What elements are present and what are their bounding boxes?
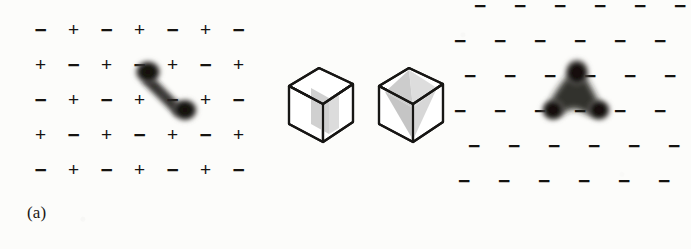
lattice-a-row-0: −+−+−+−	[24, 18, 255, 40]
lattice-a-row-1: +−+−+−+	[24, 53, 255, 75]
lattice-site-a-0-0-minus: −	[24, 20, 57, 39]
lattice-site-b-5-3-minus: −	[564, 171, 604, 190]
lattice-site-a-0-2-minus: −	[90, 20, 123, 39]
lattice-site-a-0-1-plus: +	[57, 20, 90, 39]
lattice-site-a-2-2-minus: −	[90, 90, 123, 109]
lattice-site-a-4-3-plus: +	[123, 160, 156, 179]
lattice-site-b-5-2-minus: −	[524, 171, 564, 190]
lattice-site-a-4-6-minus: −	[222, 160, 255, 179]
lattice-site-b-1-0-minus: −	[440, 31, 480, 50]
lattice-site-a-0-6-minus: −	[222, 20, 255, 39]
lattice-site-b-3-1-minus: −	[480, 101, 520, 120]
lattice-site-b-3-2-minus: −	[520, 101, 560, 120]
lattice-site-a-3-3-minus: −	[123, 125, 156, 144]
lattice-site-a-1-4-plus: +	[156, 55, 189, 74]
lattice-site-a-3-0-plus: +	[24, 125, 57, 144]
lattice-site-b-1-3-minus: −	[560, 31, 600, 50]
lattice-site-b-0-5-minus: −	[660, 0, 691, 15]
lattice-site-a-4-5-plus: +	[189, 160, 222, 179]
figure-root: −+−+−+−+−+−+−+−+−+−+−+−+−+−+−+−+−+−	[0, 0, 691, 249]
lattice-site-b-4-5-minus: −	[654, 136, 691, 155]
lattice-site-a-1-6-plus: +	[222, 55, 255, 74]
lattice-site-a-4-2-minus: −	[90, 160, 123, 179]
lattice-site-a-1-0-plus: +	[24, 55, 57, 74]
lattice-site-a-3-6-plus: +	[222, 125, 255, 144]
lattice-site-b-4-4-minus: −	[614, 136, 654, 155]
lattice-site-a-0-3-plus: +	[123, 20, 156, 39]
panel-b: −−−−−−−−−−−−−−−−−−−−−−−−−−−−−−−−−−−−	[345, 0, 691, 249]
lattice-site-a-2-4-minus: −	[156, 90, 189, 109]
lattice-site-b-0-4-minus: −	[620, 0, 660, 15]
lattice-site-a-2-3-plus: +	[123, 90, 156, 109]
lattice-a-row-3: +−+−+−+	[24, 123, 255, 145]
cube-triangular-shading	[371, 62, 451, 148]
lattice-site-a-2-5-plus: +	[189, 90, 222, 109]
lattice-site-a-3-2-plus: +	[90, 125, 123, 144]
lattice-site-a-3-4-plus: +	[156, 125, 189, 144]
lattice-site-b-5-0-minus: −	[444, 171, 484, 190]
lattice-site-a-1-1-minus: −	[57, 55, 90, 74]
lattice-site-b-4-1-minus: −	[494, 136, 534, 155]
lattice-site-b-1-5-minus: −	[640, 31, 680, 50]
lattice-b-row-1: −−−−−−	[440, 29, 680, 51]
lattice-site-a-3-1-minus: −	[57, 125, 90, 144]
lattice-site-b-0-2-minus: −	[540, 0, 580, 15]
lattice-site-b-2-5-minus: −	[650, 66, 690, 85]
lattice-site-b-2-1-minus: −	[490, 66, 530, 85]
lattice-b-row-2: −−−−−−	[450, 64, 690, 86]
lattice-site-a-2-6-minus: −	[222, 90, 255, 109]
lattice-site-a-1-2-plus: +	[90, 55, 123, 74]
lattice-site-b-4-3-minus: −	[574, 136, 614, 155]
lattice-site-b-5-4-minus: −	[604, 171, 644, 190]
lattice-site-b-5-5-minus: −	[644, 171, 684, 190]
lattice-b-row-5: −−−−−−	[444, 169, 684, 191]
lattice-site-a-1-5-minus: −	[189, 55, 222, 74]
lattice-site-a-2-1-plus: +	[57, 90, 90, 109]
lattice-site-b-3-5-minus: −	[640, 101, 680, 120]
lattice-site-b-1-4-minus: −	[600, 31, 640, 50]
lattice-site-b-2-0-minus: −	[450, 66, 490, 85]
lattice-site-b-1-1-minus: −	[480, 31, 520, 50]
lattice-site-a-4-1-plus: +	[57, 160, 90, 179]
lattice-b-row-4: −−−−−−	[454, 134, 691, 156]
lattice-site-b-5-1-minus: −	[484, 171, 524, 190]
lattice-site-b-2-2-minus: −	[530, 66, 570, 85]
lattice-site-a-4-0-minus: −	[24, 160, 57, 179]
lattice-site-b-0-0-minus: −	[460, 0, 500, 15]
lattice-site-a-2-0-minus: −	[24, 90, 57, 109]
lattice-site-a-0-5-plus: +	[189, 20, 222, 39]
lattice-site-b-4-0-minus: −	[454, 136, 494, 155]
lattice-a-row-2: −+−+−+−	[24, 88, 255, 110]
panel-a-label: (a)	[27, 203, 46, 223]
lattice-site-b-2-3-minus: −	[570, 66, 610, 85]
lattice-site-b-3-4-minus: −	[600, 101, 640, 120]
lattice-site-a-3-5-minus: −	[189, 125, 222, 144]
lattice-site-b-2-4-minus: −	[610, 66, 650, 85]
lattice-site-b-0-1-minus: −	[500, 0, 540, 15]
lattice-site-a-1-3-minus: −	[123, 55, 156, 74]
lattice-site-b-3-3-minus: −	[560, 101, 600, 120]
panel-a: −+−+−+−+−+−+−+−+−+−+−+−+−+−+−+−+−+−	[0, 0, 346, 249]
lattice-site-b-4-2-minus: −	[534, 136, 574, 155]
lattice-site-b-1-2-minus: −	[520, 31, 560, 50]
lattice-a-row-4: −+−+−+−	[24, 158, 255, 180]
lattice-site-b-0-3-minus: −	[580, 0, 620, 15]
lattice-site-a-4-4-minus: −	[156, 160, 189, 179]
lattice-b-row-3: −−−−−−	[440, 99, 680, 121]
lattice-b-row-0: −−−−−−	[460, 0, 691, 16]
lattice-site-a-0-4-minus: −	[156, 20, 189, 39]
